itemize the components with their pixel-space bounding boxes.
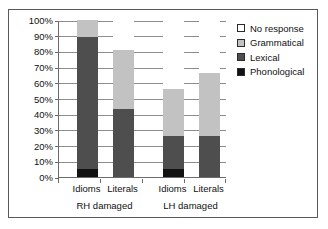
legend-label: Lexical <box>250 53 280 63</box>
y-axis-tick-label: 60% <box>34 79 53 89</box>
bar-segment-lex <box>113 109 134 177</box>
legend-item-lex: Lexical <box>237 50 304 65</box>
y-axis-tick <box>55 68 59 69</box>
y-axis-tick-label: 20% <box>34 142 53 152</box>
y-axis-tick-label: 100% <box>29 16 53 26</box>
x-axis-category-label: Literals <box>100 184 146 194</box>
y-axis-tick-label: 70% <box>34 63 53 73</box>
bar-segment-phon <box>77 169 98 177</box>
legend-swatch-lex-icon <box>237 53 245 61</box>
bar-segment-none <box>199 20 220 73</box>
y-axis-tick <box>55 21 59 22</box>
x-axis-tick <box>184 179 185 183</box>
x-axis-group-label: LH damaged <box>136 201 246 211</box>
bar-segment-gram <box>113 50 134 110</box>
y-axis-tick <box>55 115 59 116</box>
bar-lh-damaged-literals <box>199 20 220 177</box>
legend-swatch-phon-icon <box>237 68 245 76</box>
bar-segment-none <box>113 20 134 50</box>
bar-segment-gram <box>163 89 184 136</box>
y-axis-tick <box>55 146 59 147</box>
plot-area: 0%10%20%30%40%50%60%70%80%90%100% <box>58 21 226 178</box>
y-axis-tick <box>55 162 59 163</box>
legend-swatch-gram-icon <box>237 39 245 47</box>
chart-frame: 0%10%20%30%40%50%60%70%80%90%100% Idioms… <box>8 9 318 218</box>
legend-swatch-none-icon <box>237 24 245 32</box>
bar-segment-phon <box>163 169 184 177</box>
bar-segment-gram <box>199 73 220 136</box>
y-axis-tick <box>55 83 59 84</box>
legend-label: No response <box>250 24 304 34</box>
legend-item-phon: Phonological <box>237 65 304 80</box>
y-axis-tick <box>55 36 59 37</box>
bar-segment-none <box>163 20 184 89</box>
bar-segment-lex <box>77 37 98 169</box>
x-axis-tick <box>225 179 226 183</box>
legend-label: Phonological <box>250 67 304 77</box>
y-axis-tick-label: 80% <box>34 48 53 58</box>
y-axis-tick-label: 30% <box>34 126 53 136</box>
legend-item-none: No response <box>237 21 304 36</box>
y-axis-tick-label: 10% <box>34 158 53 168</box>
bar-rh-damaged-idioms <box>77 20 98 177</box>
x-axis-tick <box>142 179 143 183</box>
bar-segment-lex <box>199 136 220 177</box>
chart-legend: No responseGrammaticalLexicalPhonologica… <box>237 21 304 79</box>
y-axis-tick-label: 0% <box>39 173 53 183</box>
y-axis-tick <box>55 52 59 53</box>
x-axis-tick <box>100 179 101 183</box>
y-axis-tick-label: 90% <box>34 32 53 42</box>
bar-segment-lex <box>163 136 184 169</box>
legend-item-gram: Grammatical <box>237 36 304 51</box>
x-axis-category-label: Literals <box>186 184 232 194</box>
bar-lh-damaged-idioms <box>163 20 184 177</box>
y-axis-tick-label: 40% <box>34 110 53 120</box>
y-axis-tick-label: 50% <box>34 95 53 105</box>
legend-label: Grammatical <box>250 38 304 48</box>
bar-rh-damaged-literals <box>113 20 134 177</box>
y-axis-tick <box>55 99 59 100</box>
bar-segment-gram <box>77 20 98 37</box>
y-axis-tick <box>55 130 59 131</box>
x-axis-tick <box>58 179 59 183</box>
